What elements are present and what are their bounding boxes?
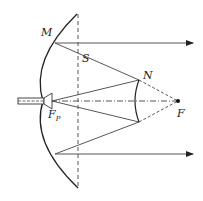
- feed-horn-icon: [18, 93, 52, 109]
- label-Fp-main: F: [48, 108, 56, 121]
- ray-M-to-N: [55, 43, 139, 80]
- ray-feed-to-N: [52, 80, 139, 101]
- label-N: N: [143, 70, 153, 81]
- label-M: M: [41, 27, 52, 38]
- label-S: S: [82, 53, 90, 64]
- dashed-lower-to-F: [139, 101, 178, 122]
- label-Fp-sub: P: [56, 115, 61, 123]
- dashed-N-to-F: [139, 80, 178, 101]
- label-Fp: FP: [48, 109, 60, 123]
- label-F: F: [177, 108, 185, 119]
- ray-bottom-to-subreflector: [55, 122, 139, 154]
- focal-point-F: [176, 99, 180, 103]
- cassegrain-diagram: M S N F FP: [0, 0, 203, 201]
- ray-feed-to-lower: [52, 101, 139, 122]
- diagram-canvas: [0, 0, 203, 201]
